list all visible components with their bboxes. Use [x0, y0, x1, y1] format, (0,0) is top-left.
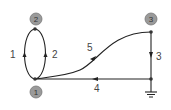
graph-diagram: 1 2 5 3 4 2 1: [0, 0, 171, 110]
edge-2: 2: [35, 29, 58, 79]
arrow-down-icon: [149, 52, 153, 58]
edge-label-3: 3: [156, 51, 162, 62]
vertex-3: [149, 30, 153, 34]
edge-label-4: 4: [94, 83, 100, 94]
arrow-left-icon: [92, 77, 98, 81]
node-badge-1: 1: [30, 86, 42, 98]
edge-label-5: 5: [87, 42, 93, 53]
edge-4: 4: [35, 77, 151, 94]
edge-label-2: 2: [52, 49, 58, 60]
edge-label-1: 1: [10, 49, 16, 60]
svg-text:2: 2: [34, 15, 39, 24]
node-badge-2: 2: [30, 13, 42, 25]
vertex-2: [33, 27, 37, 31]
edge-3: 3: [149, 32, 162, 79]
edge-1: 1: [10, 29, 35, 79]
ground-icon: [145, 79, 157, 97]
node-badge-3: 3: [145, 13, 157, 25]
svg-text:3: 3: [149, 15, 154, 24]
vertex-ground: [149, 77, 153, 81]
vertex-1: [33, 77, 37, 81]
svg-text:1: 1: [34, 88, 39, 97]
arrow-up-icon: [44, 52, 48, 57]
arrow-down-icon: [23, 52, 27, 57]
